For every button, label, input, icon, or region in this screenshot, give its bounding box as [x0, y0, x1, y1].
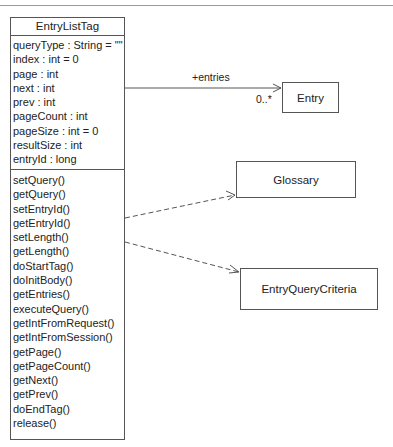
method: getPageCount(): [13, 359, 124, 373]
method: executeQuery(): [13, 302, 124, 316]
class-name: Glossary: [273, 174, 318, 186]
attribute: prev : int: [13, 95, 124, 109]
dependency-arrow-glossary: [125, 191, 235, 218]
attribute: entryId : long: [13, 152, 124, 166]
class-box-glossary[interactable]: Glossary: [236, 161, 356, 198]
method: release(): [13, 416, 124, 430]
class-box-entryquerycriteria[interactable]: EntryQueryCriteria: [240, 268, 378, 310]
method: setLength(): [13, 230, 124, 244]
attribute: page : int: [13, 67, 124, 81]
method: getEntryId(): [13, 216, 124, 230]
method: getPrev(): [13, 387, 124, 401]
attribute: next : int: [13, 81, 124, 95]
class-name: Entry: [297, 92, 324, 104]
class-name: EntryQueryCriteria: [261, 283, 356, 295]
method: setQuery(): [13, 173, 124, 187]
method: getLength(): [13, 244, 124, 258]
association-arrow-entries: [125, 84, 281, 92]
method: getQuery(): [13, 187, 124, 201]
method: getPage(): [13, 345, 124, 359]
attributes-compartment: queryType : String = "" index : int = 0 …: [11, 36, 124, 170]
association-multiplicity-label: 0..*: [256, 93, 272, 105]
method: doStartTag(): [13, 259, 124, 273]
association-role-label: +entries: [192, 71, 230, 83]
class-box-entry[interactable]: Entry: [282, 82, 339, 113]
attribute: pageSize : int = 0: [13, 124, 124, 138]
method: setEntryId(): [13, 202, 124, 216]
attribute: pageCount : int: [13, 109, 124, 123]
method: doEndTag(): [13, 402, 124, 416]
dependency-arrow-criteria: [125, 242, 239, 273]
method: doInitBody(): [13, 273, 124, 287]
methods-compartment: setQuery() getQuery() setEntryId() getEn…: [11, 170, 124, 430]
attribute: resultSize : int: [13, 138, 124, 152]
attribute: index : int = 0: [13, 52, 124, 66]
attribute: queryType : String = "": [13, 38, 124, 52]
class-box-entrylisttag[interactable]: EntryListTag queryType : String = "" ind…: [10, 17, 125, 440]
method: getEntries(): [13, 287, 124, 301]
method: getIntFromRequest(): [13, 316, 124, 330]
method: getIntFromSession(): [13, 330, 124, 344]
class-name: EntryListTag: [11, 18, 124, 36]
method: getNext(): [13, 373, 124, 387]
